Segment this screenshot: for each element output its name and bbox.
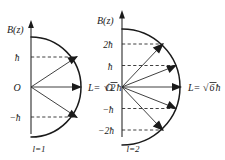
- vector-l2-m-plus2: [122, 43, 164, 87]
- tick-label-l2-minus-hbar: −ħ: [102, 105, 113, 115]
- tick-label-l2-minus-2hbar: −2ħ: [98, 126, 114, 136]
- angular-momentum-figure: B(z) ħ O −ħ: [0, 0, 225, 160]
- vector-l2-m-0: [122, 83, 182, 91]
- tick-label-l2-plus-2hbar: 2ħ: [103, 40, 113, 50]
- vector-l1-m-plus1: [31, 56, 78, 87]
- axis-arrowhead-l2: [119, 10, 125, 19]
- tick-label-l2-plus-hbar: ħ: [108, 62, 113, 72]
- magnitude-unit-l1: ħ: [117, 82, 122, 93]
- axis-arrowhead-l1: [28, 20, 34, 28]
- origin-label-l2: O: [105, 82, 112, 93]
- vector-l1-m-minus1: [31, 87, 78, 118]
- magnitude-label-l2: L= √ 6 ħ: [187, 82, 221, 93]
- axis-label-l1: B(z): [7, 24, 24, 36]
- magnitude-label-l1: L= √ 2 ħ: [87, 82, 122, 93]
- panel-caption-l1: l=1: [32, 144, 45, 154]
- magnitude-radicand-l2: 6: [210, 82, 215, 93]
- axis-label-l2: B(z): [97, 15, 114, 27]
- vector-l1-m-0: [31, 83, 82, 91]
- vector-l2-m-plus1: [122, 65, 177, 87]
- origin-label-l1: O: [13, 82, 20, 93]
- vector-l2-m-minus2: [122, 87, 164, 131]
- magnitude-label-l2-prefix: L=: [187, 82, 200, 93]
- tick-label-l1-plus-hbar: ħ: [15, 53, 20, 63]
- magnitude-unit-l2: ħ: [216, 82, 221, 93]
- magnitude-label-l1-prefix: L=: [87, 82, 100, 93]
- panel-caption-l2: l=2: [126, 144, 140, 154]
- radical-sign-icon-l2: √: [203, 82, 209, 93]
- figure-canvas: B(z) ħ O −ħ: [0, 0, 225, 160]
- vector-l2-m-minus1: [122, 87, 177, 109]
- tick-label-l1-minus-hbar: −ħ: [9, 113, 20, 123]
